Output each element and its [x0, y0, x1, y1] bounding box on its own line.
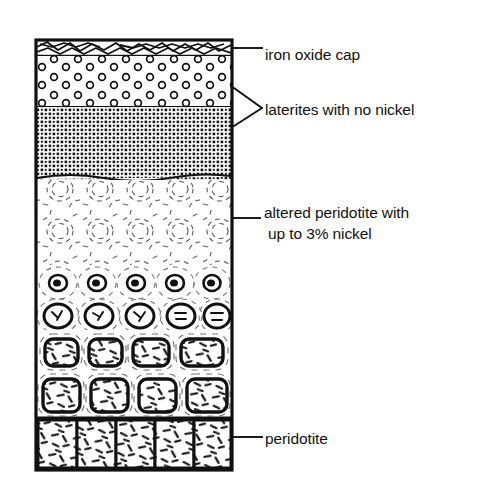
layer-laterite-circles [37, 56, 231, 107]
layer-corestones-large [37, 330, 231, 418]
label-altered-peridotite: altered peridotite with up to 3% nickel [264, 202, 489, 244]
layer-corestones-small [37, 265, 235, 333]
label-iron-oxide-cap: iron oxide cap [265, 44, 360, 65]
geological-cross-section-figure [0, 0, 502, 490]
label-altered-line-2: up to 3% nickel [264, 223, 489, 244]
layer-peridotite-bedrock [37, 418, 231, 468]
label-peridotite: peridotite [265, 428, 328, 449]
label-altered-line-1: altered peridotite with [264, 204, 409, 221]
layer-iron-oxide-cap [37, 41, 231, 56]
layer-laterite-stipple [37, 107, 231, 182]
layer-saprolite-faint [37, 180, 231, 265]
label-laterites: laterites with no nickel [265, 99, 414, 120]
leader-laterites [234, 88, 262, 126]
